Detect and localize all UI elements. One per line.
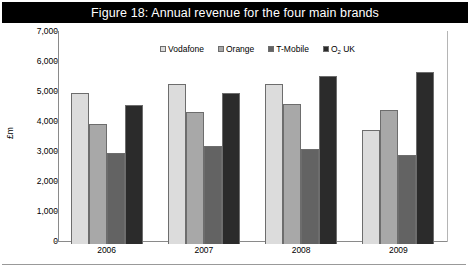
- bar[interactable]: [204, 146, 222, 244]
- plot-right-border: [447, 31, 448, 242]
- bar[interactable]: [107, 153, 125, 244]
- y-tick-label: 0: [24, 237, 58, 245]
- bar[interactable]: [362, 130, 380, 244]
- legend-label: Orange: [226, 44, 254, 54]
- legend-swatch-icon: [160, 46, 166, 52]
- bar[interactable]: [186, 112, 204, 244]
- y-tick-label: 7,000: [24, 27, 58, 35]
- chart-legend: VodafoneOrangeT-MobileO2 UK: [160, 44, 355, 54]
- bar[interactable]: [125, 105, 143, 244]
- bar[interactable]: [283, 104, 301, 244]
- legend-item[interactable]: T-Mobile: [268, 44, 309, 54]
- chart-plot-wrapper: £m 7,0006,0005,0004,0003,0002,0001,0000 …: [0, 23, 470, 258]
- bar-group: [168, 34, 240, 244]
- y-tick-label: 2,000: [24, 177, 58, 185]
- y-tick-label: 6,000: [24, 57, 58, 65]
- bar-group: [265, 34, 337, 244]
- legend-item[interactable]: O2 UK: [323, 44, 355, 54]
- y-tick-label: 5,000: [24, 87, 58, 95]
- legend-label: O2 UK: [331, 44, 355, 54]
- bar[interactable]: [265, 84, 283, 244]
- figure-container: Figure 18: Annual revenue for the four m…: [0, 0, 470, 272]
- bar-group: [71, 34, 143, 244]
- bar[interactable]: [71, 93, 89, 245]
- x-axis-label: 2008: [271, 245, 331, 255]
- bar[interactable]: [301, 149, 319, 244]
- y-axis-ticks: 7,0006,0005,0004,0003,0002,0001,0000: [0, 23, 58, 258]
- legend-swatch-icon: [268, 46, 274, 52]
- x-axis-label: 2009: [368, 245, 428, 255]
- legend-label: Vodafone: [168, 44, 204, 54]
- y-tick-label: 4,000: [24, 117, 58, 125]
- x-axis-label: 2007: [174, 245, 234, 255]
- y-tick-label: 1,000: [24, 207, 58, 215]
- legend-item[interactable]: Vodafone: [160, 44, 204, 54]
- bar-group: [362, 34, 434, 244]
- bar[interactable]: [89, 124, 107, 244]
- bar[interactable]: [416, 72, 434, 245]
- y-tick-label: 3,000: [24, 147, 58, 155]
- x-axis-label: 2006: [77, 245, 137, 255]
- bar[interactable]: [319, 76, 337, 244]
- legend-label: T-Mobile: [276, 44, 309, 54]
- bar[interactable]: [222, 93, 240, 244]
- legend-swatch-icon: [323, 46, 329, 52]
- legend-swatch-icon: [218, 46, 224, 52]
- bar[interactable]: [398, 155, 416, 244]
- figure-bottom-divider: [2, 264, 466, 265]
- plot-area: [58, 31, 447, 244]
- bar[interactable]: [380, 110, 398, 244]
- figure-title: Figure 18: Annual revenue for the four m…: [91, 6, 379, 20]
- bar[interactable]: [168, 84, 186, 245]
- figure-title-bar: Figure 18: Annual revenue for the four m…: [2, 2, 468, 23]
- legend-item[interactable]: Orange: [218, 44, 254, 54]
